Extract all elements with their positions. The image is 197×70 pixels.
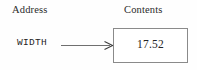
memory-cell-diagram: Address Contents WIDTH 17.52: [0, 0, 197, 70]
contents-cell-value: 17.52: [137, 39, 164, 51]
contents-column-header: Contents: [124, 5, 163, 16]
address-column-header: Address: [12, 5, 47, 16]
address-label-width: WIDTH: [17, 38, 47, 48]
right-arrow-icon: [60, 38, 114, 52]
contents-cell-box: 17.52: [113, 28, 188, 63]
